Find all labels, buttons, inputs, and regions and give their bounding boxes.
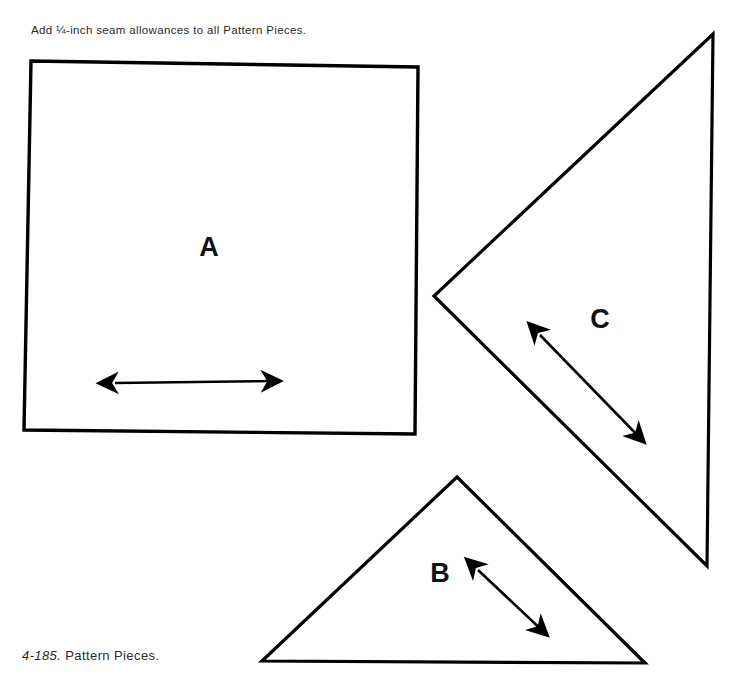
figure-caption-text: Pattern Pieces. bbox=[61, 648, 159, 663]
pattern-piece-label-a: A bbox=[199, 234, 219, 261]
pattern-piece-c-outline bbox=[434, 34, 713, 566]
pattern-pieces-figure: Add ¼-inch seam allowances to all Patter… bbox=[0, 0, 733, 689]
figure-number: 4-185. bbox=[22, 648, 61, 663]
figure-caption: 4-185. Pattern Pieces. bbox=[22, 648, 159, 663]
pattern-piece-b-outline bbox=[262, 477, 645, 663]
pattern-piece-label-b: B bbox=[430, 560, 450, 587]
pattern-piece-a-outline bbox=[24, 61, 418, 434]
pattern-drawing bbox=[0, 0, 733, 689]
pattern-piece-label-c: C bbox=[590, 306, 610, 333]
